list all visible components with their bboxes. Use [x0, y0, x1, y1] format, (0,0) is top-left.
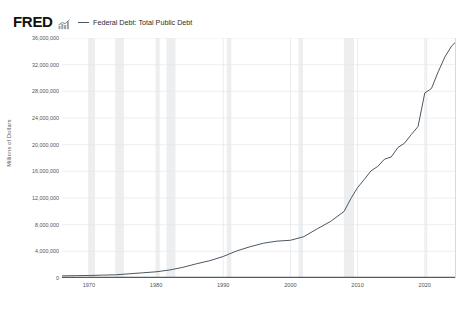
recession-band — [299, 38, 304, 278]
x-axis-tick-label: 2000 — [284, 282, 296, 288]
recession-band — [166, 38, 175, 278]
chart-canvas — [62, 38, 455, 278]
y-axis-tick-label: 36,000,000 — [3, 35, 59, 41]
recession-bands — [89, 38, 428, 278]
recession-band — [115, 38, 124, 278]
legend-series-label: Federal Debt: Total Public Debt — [93, 18, 192, 27]
recession-band — [156, 38, 159, 278]
x-axis-tick-labels: 197019801990200020102020 — [62, 282, 455, 294]
legend-line-swatch — [78, 22, 89, 23]
recession-band — [344, 38, 354, 278]
x-axis-tick-label: 2020 — [419, 282, 431, 288]
y-axis-tick-label: 12,000,000 — [3, 195, 59, 201]
fred-chart-screenshot: FRED Federal Debt: Total Public Debt 04,… — [0, 0, 463, 316]
y-axis-tick-label: 28,000,000 — [3, 88, 59, 94]
y-axis-tick-label: 32,000,000 — [3, 62, 59, 68]
x-axis-tick-label: 2010 — [351, 282, 363, 288]
x-axis-tick-label: 1970 — [83, 282, 95, 288]
plot-area — [62, 38, 456, 278]
x-axis-tick-label: 1990 — [217, 282, 229, 288]
y-axis-tick-label: 0 — [3, 275, 59, 281]
recession-band — [426, 38, 428, 278]
recession-band — [227, 38, 232, 278]
chart-header: FRED Federal Debt: Total Public Debt — [0, 0, 463, 32]
y-axis-tick-label: 4,000,000 — [3, 248, 59, 254]
recession-band — [89, 38, 95, 278]
y-axis-tick-label: 8,000,000 — [3, 222, 59, 228]
chart-legend: Federal Debt: Total Public Debt — [78, 16, 192, 28]
x-axis-tick-label: 1980 — [150, 282, 162, 288]
mini-bar-chart-icon — [58, 16, 71, 27]
y-axis-title: Millions of Dollars — [6, 98, 12, 188]
